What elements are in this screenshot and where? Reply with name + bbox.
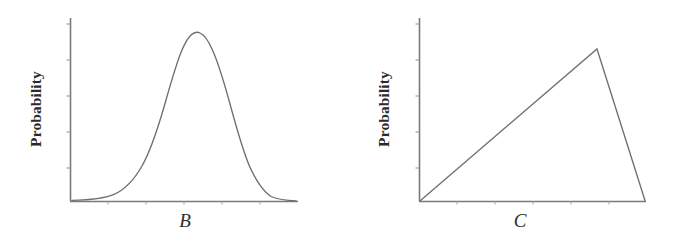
panel-c: Probability (340, 0, 681, 243)
gaussian-curve-b (72, 32, 296, 201)
x-axis-label-c: C (465, 210, 575, 232)
x-axis-label-b: B (130, 210, 240, 232)
figure-container: Probability (0, 0, 681, 243)
triangular-curve-c (421, 49, 646, 201)
plot-area-c (340, 0, 681, 243)
plot-area-b (0, 0, 340, 243)
panel-b: Probability (0, 0, 340, 243)
